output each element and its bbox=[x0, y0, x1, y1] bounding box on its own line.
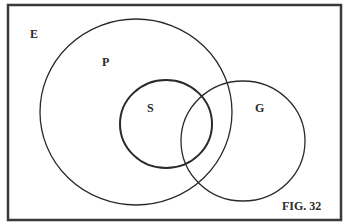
set-p-label: P bbox=[102, 55, 109, 69]
venn-diagram: E P S G FIG. 32 bbox=[0, 0, 345, 224]
universe-frame bbox=[8, 5, 341, 220]
figure-caption: FIG. 32 bbox=[282, 199, 321, 213]
universe-label: E bbox=[30, 27, 38, 41]
set-s-label: S bbox=[147, 101, 154, 115]
set-g-label: G bbox=[255, 101, 264, 115]
